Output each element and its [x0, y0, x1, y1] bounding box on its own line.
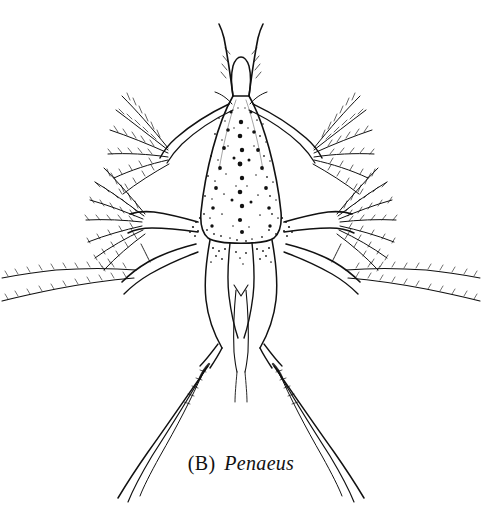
penaeus-larva-drawing: [0, 0, 482, 530]
figure-caption: (B)Penaeus: [0, 452, 482, 475]
caption-panel-label: (B): [188, 452, 216, 474]
caption-taxon-name: Penaeus: [224, 452, 294, 474]
figure-container: (B)Penaeus: [0, 0, 482, 530]
